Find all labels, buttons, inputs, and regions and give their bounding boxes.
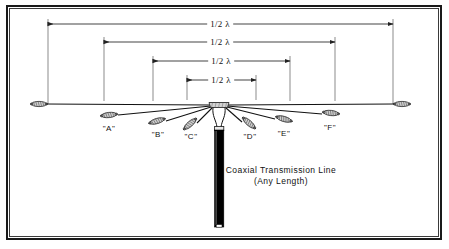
- feedline-caption-line2: (Any Length): [254, 175, 308, 187]
- element-label-b: "B": [152, 130, 165, 139]
- element-label-d: "D": [244, 132, 257, 141]
- figure-text-layer: 1/2 λ 1/2 λ 1/2 λ 1/2 λ "A" "B" "C" "D" …: [0, 0, 449, 249]
- element-label-a: "A": [103, 124, 116, 133]
- element-label-f: "F": [324, 123, 336, 132]
- dimension-label-1: 1/2 λ: [207, 19, 233, 29]
- figure-canvas: 1/2 λ 1/2 λ 1/2 λ 1/2 λ "A" "B" "C" "D" …: [0, 0, 449, 249]
- element-label-e: "E": [278, 129, 291, 138]
- dimension-label-3: 1/2 λ: [208, 56, 234, 66]
- dimension-label-2: 1/2 λ: [207, 37, 233, 47]
- dimension-label-4: 1/2 λ: [208, 75, 234, 85]
- element-label-c: "C": [185, 132, 198, 141]
